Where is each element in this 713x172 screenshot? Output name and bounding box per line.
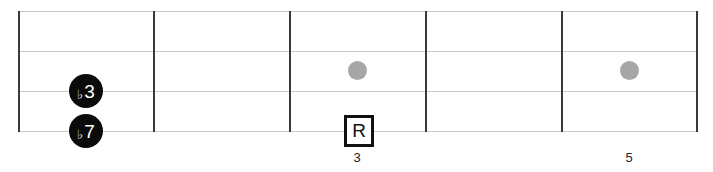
- fret-line-2: [289, 11, 291, 132]
- root-label: R: [352, 120, 366, 142]
- root-note-box: R: [344, 115, 374, 147]
- nut-line: [18, 11, 20, 132]
- fret-line-1: [153, 11, 155, 132]
- note-degree: 7: [84, 122, 95, 141]
- note-degree: 3: [84, 82, 95, 101]
- fret-5-inlay-dot: [620, 61, 639, 80]
- fret-line-3: [425, 11, 427, 132]
- fret-number-5: 5: [619, 150, 639, 165]
- string-line-1: [18, 11, 697, 12]
- flat-symbol: ♭: [77, 88, 83, 101]
- flat-symbol: ♭: [77, 128, 83, 141]
- string-line-2: [18, 51, 697, 52]
- fret-line-4: [561, 11, 563, 132]
- fret-3-inlay-dot: [348, 61, 367, 80]
- note-flat-3: ♭3: [69, 74, 103, 108]
- note-flat-7: ♭7: [69, 114, 103, 148]
- fret-number-3: 3: [347, 150, 367, 165]
- fretboard-diagram: ♭3 ♭7 R 3 5: [0, 0, 713, 172]
- string-line-3: [18, 91, 697, 92]
- fret-line-5: [696, 11, 698, 132]
